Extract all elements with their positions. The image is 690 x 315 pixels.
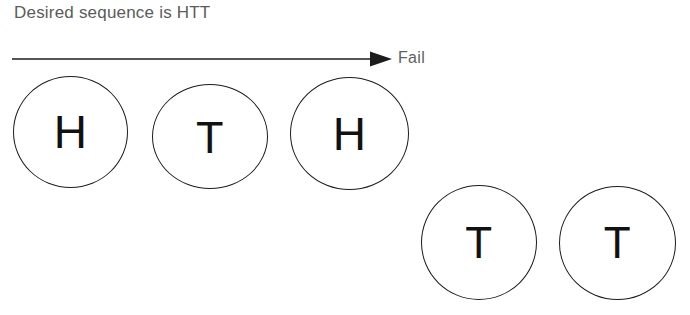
coin-circle-1: H [13, 76, 128, 188]
diagram-caption: Desired sequence is HTT [14, 3, 210, 23]
fail-label: Fail [398, 49, 425, 67]
coin-sequence-diagram: Desired sequence is HTT Fail H T H T T [0, 0, 690, 315]
coin-face-3: H [291, 111, 408, 157]
coin-circle-5: T [559, 186, 676, 300]
coin-circle-4: T [421, 185, 537, 300]
coin-circle-2: T [152, 84, 268, 189]
coin-face-1: H [14, 109, 127, 155]
coin-face-4: T [422, 221, 536, 265]
coin-face-2: T [153, 114, 267, 159]
coin-circle-3: H [290, 77, 409, 190]
progress-arrow-icon [0, 44, 400, 76]
coin-face-5: T [560, 221, 675, 265]
arrow-head [370, 52, 392, 67]
